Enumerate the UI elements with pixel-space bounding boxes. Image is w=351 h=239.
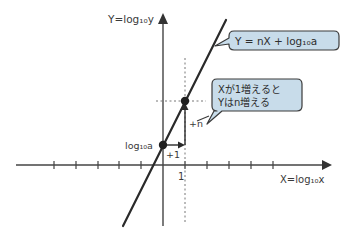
- right-arrow-icon: [178, 142, 185, 149]
- log-graph-diagram: Y=log₁₀y X=log₁₀x log₁₀a 1 +1 +n Y = nX …: [0, 0, 351, 239]
- equation-bubble: Y = nX + log₁₀a: [215, 31, 339, 50]
- equation-text: Y = nX + log₁₀a: [234, 35, 317, 47]
- x-axis-label: X=log₁₀x: [280, 174, 324, 185]
- step-x-label: +1: [166, 149, 180, 160]
- regression-line: [123, 20, 226, 226]
- x-axis-arrow-icon: [322, 160, 332, 170]
- y-axis-label: Y=log₁₀y: [107, 13, 154, 25]
- explanation-line-2: Yはn増える: [217, 96, 270, 108]
- intercept-point: [159, 141, 167, 149]
- x-tick-label-1: 1: [178, 171, 184, 182]
- y-axis-arrow-icon: [158, 13, 168, 24]
- explanation-bubble: Xが1増えると Yはn増える: [207, 79, 302, 124]
- intercept-label: log₁₀a: [125, 140, 153, 151]
- step-arrows: [165, 103, 189, 149]
- y-axis: [158, 13, 168, 226]
- step-point: [181, 97, 189, 105]
- explanation-line-1: Xが1増えると: [218, 83, 281, 95]
- x-axis: [16, 160, 332, 170]
